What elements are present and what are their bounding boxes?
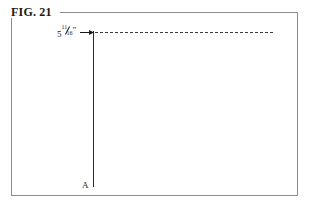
vertical-construction-line (93, 31, 94, 187)
horizontal-dashed-reference-line (95, 32, 273, 33)
figure-caption: FIG. 21 (11, 5, 52, 19)
dimension-unit: ” (73, 26, 77, 35)
dimension-arrow-icon (80, 28, 94, 37)
point-label-a: A (82, 180, 89, 191)
frame-right-edge (297, 12, 298, 196)
frame-bottom-edge (11, 195, 298, 196)
frame-top-edge (60, 12, 298, 13)
dimension-fraction: 1116 (62, 26, 73, 37)
dimension-label: 51116” (57, 25, 76, 40)
figure-canvas: FIG. 21 51116” A (0, 0, 311, 209)
frame-left-edge (11, 18, 12, 196)
fraction-denominator: 16 (67, 30, 73, 36)
